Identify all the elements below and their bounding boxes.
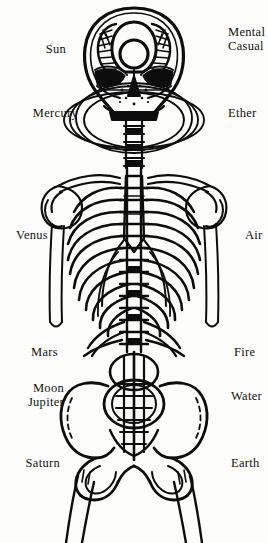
label-casual-line-1: Casual (228, 39, 265, 53)
label-fire-line-0: Fire (234, 345, 255, 359)
label-mercury: Mercury (33, 106, 78, 120)
label-sun-line-0: Sun (46, 42, 66, 56)
label-mars: Mars (31, 345, 58, 359)
label-earth: Earth (231, 456, 260, 470)
label-jupiter-line-1: Jupiter (28, 395, 64, 409)
label-saturn-line-0: Saturn (26, 456, 60, 470)
skeleton-diagram: Sun Mercury Venus Mars Moon Jupiter Satu… (0, 0, 268, 543)
label-mars-line-0: Mars (31, 345, 58, 359)
label-air-line-0: Air (245, 228, 263, 242)
label-sun: Sun (46, 42, 66, 56)
label-ether-line-0: Ether (228, 106, 257, 120)
label-ether: Ether (228, 106, 257, 120)
label-fire: Fire (234, 345, 255, 359)
label-moon-line-0: Moon (28, 381, 64, 395)
label-mercury-line-0: Mercury (33, 106, 78, 120)
label-moon-jupiter: Moon Jupiter (28, 381, 64, 409)
label-mental-line-0: Mental (228, 25, 265, 39)
label-saturn: Saturn (26, 456, 60, 470)
label-earth-line-0: Earth (231, 456, 260, 470)
label-air: Air (245, 228, 263, 242)
label-venus: Venus (16, 228, 48, 242)
label-water-line-0: Water (231, 389, 262, 403)
label-water: Water (231, 389, 262, 403)
label-venus-line-0: Venus (16, 228, 48, 242)
label-mental-casual: Mental Casual (228, 25, 265, 53)
